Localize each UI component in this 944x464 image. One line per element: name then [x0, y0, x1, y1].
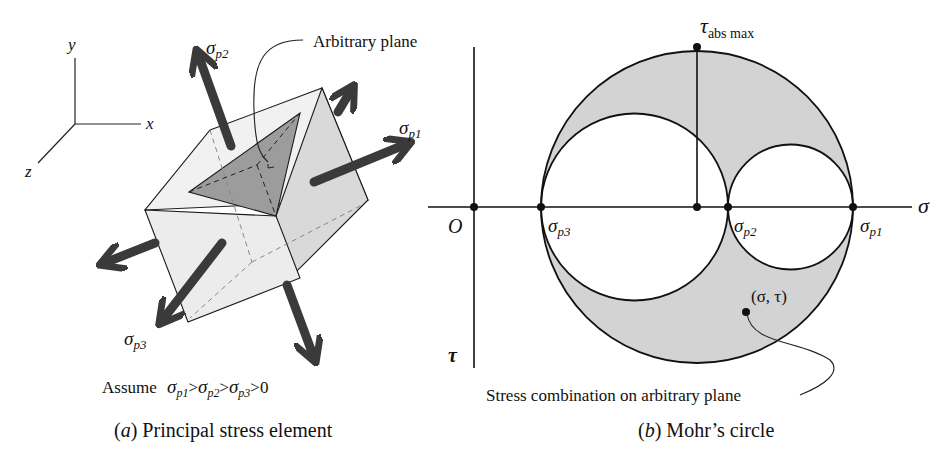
tau-abs-max-label: τabs max [700, 13, 754, 41]
stress-state-callout: Stress combination on arbitrary plane [486, 386, 741, 405]
principal-stress-element-panel: y x z [24, 32, 421, 442]
sigma-p3-back-arrow [107, 243, 155, 262]
origin-point [470, 203, 478, 211]
sigma-p1-point [849, 203, 857, 211]
sigma-p1-label: σp1 [399, 117, 421, 141]
figure: y x z [0, 0, 944, 464]
sigma-p3-mohr-label: σp3 [548, 215, 571, 239]
sigma-p2-back-arrow [287, 285, 313, 355]
sigma-p2-mohr-label: σp2 [734, 215, 757, 239]
assume-inequality: Assume σp1>σp2>σp3>0 [102, 376, 268, 400]
stress-state-label: (σ, τ) [751, 287, 787, 306]
caption-a: (a) Principal stress element [114, 419, 333, 442]
sigma-p3-point [537, 203, 545, 211]
sigma-axis-label: σ [918, 193, 930, 218]
z-axis-label: z [24, 162, 32, 181]
origin-label: O [448, 215, 462, 237]
coordinate-axes-icon [38, 58, 141, 163]
y-axis-label: y [66, 35, 76, 54]
sigma-p3-label: σp3 [124, 328, 147, 352]
cube-element [145, 88, 368, 322]
stress-state-point [742, 308, 750, 316]
x-axis-label: x [145, 114, 154, 133]
sigma-p1-mohr-label: σp1 [860, 215, 882, 239]
tau-abs-max-point [693, 43, 701, 51]
arbitrary-plane-label: Arbitrary plane [313, 32, 417, 51]
caption-b: (b) Mohr’s circle [638, 419, 774, 442]
sigma-p2-point [724, 203, 732, 211]
mohrs-circle-panel: O σ τ σp3 σp2 σp1 τabs max (σ, τ) Stress… [428, 13, 930, 442]
tau-axis-label: τ [448, 344, 458, 366]
sigma-p2-label: σp2 [206, 37, 229, 61]
sigma-p1-back-arrow [338, 92, 350, 112]
center-point [693, 203, 701, 211]
